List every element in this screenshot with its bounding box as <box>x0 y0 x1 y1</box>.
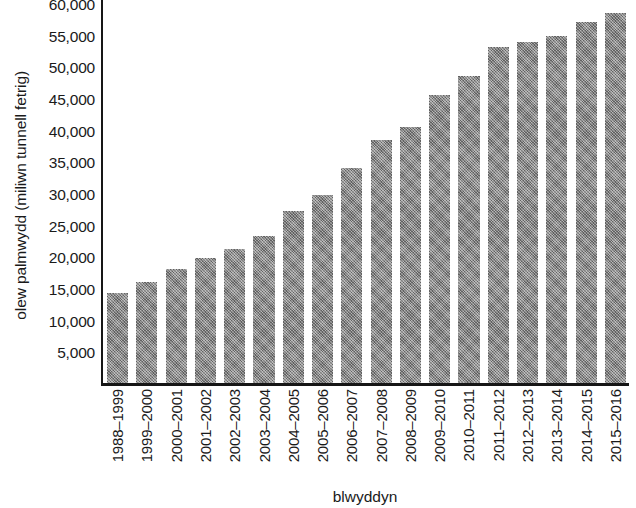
x-axis-tick-label: 2014–2015 <box>579 389 594 462</box>
bar <box>166 269 187 383</box>
x-axis-tick-label: 2002–2003 <box>227 389 242 462</box>
x-axis-tick-label: 2013–2014 <box>549 389 564 462</box>
x-axis-tick-label: 2009–2010 <box>432 389 447 462</box>
x-axis-tick-label: 2008–2009 <box>403 389 418 462</box>
bar <box>253 236 274 383</box>
x-axis-tick-label: 2004–2005 <box>286 389 301 462</box>
y-axis-tick-label: 15,000 <box>49 282 95 298</box>
y-axis-tick-label: 50,000 <box>49 61 95 77</box>
x-axis-tick-label: 2006–2007 <box>344 389 359 462</box>
y-axis-tick-label: 30,000 <box>49 187 95 203</box>
y-axis-tick-label: 55,000 <box>49 29 95 45</box>
x-axis-tick-label: 2015–2016 <box>608 389 623 462</box>
x-axis-tick-label: 2007–2008 <box>374 389 389 462</box>
bar <box>341 168 362 383</box>
x-axis-tick-label: 2000–2001 <box>169 389 184 462</box>
x-axis-line <box>101 383 629 386</box>
y-axis-tick-label: 10,000 <box>49 314 95 330</box>
bar <box>195 258 216 383</box>
x-axis-tick-label: 2011–2012 <box>491 389 506 461</box>
bar <box>312 195 333 383</box>
y-axis-tick-label: 25,000 <box>49 219 95 235</box>
bar <box>605 13 626 383</box>
bar <box>458 76 479 383</box>
bar <box>400 127 421 384</box>
plot-area <box>101 0 629 386</box>
y-axis-title-text: olew palmwydd (miliwn tunnell fetrig) <box>13 71 29 320</box>
x-axis-title: blwyddyn <box>101 489 629 505</box>
x-axis-tick-label: 2003–2004 <box>257 389 272 462</box>
y-axis-tick-labels: 5,00010,00015,00020,00025,00030,00035,00… <box>42 0 98 390</box>
x-axis-tick-label: 2012–2013 <box>520 389 535 462</box>
y-axis-title: olew palmwydd (miliwn tunnell fetrig) <box>0 0 42 390</box>
x-axis-tick-label: 2001–2002 <box>198 389 213 462</box>
x-axis-tick-label: 1999–2000 <box>139 389 154 462</box>
bar <box>371 140 392 383</box>
bar <box>136 282 157 383</box>
bar <box>488 47 509 383</box>
bars-layer <box>103 0 629 383</box>
y-axis-tick-label: 60,000 <box>49 0 95 13</box>
bar <box>107 293 128 383</box>
y-axis-tick-label: 35,000 <box>49 156 95 172</box>
bar <box>283 211 304 383</box>
x-axis-tick-label: 1988–1999 <box>110 389 125 462</box>
bar <box>517 42 538 383</box>
y-axis-tick-label: 45,000 <box>49 92 95 108</box>
y-axis-tick-label: 40,000 <box>49 124 95 140</box>
bar <box>224 249 245 383</box>
bar <box>429 95 450 383</box>
x-axis-tick-labels: 1988–19991999–20002000–20012001–20022002… <box>103 389 630 489</box>
y-axis-tick-label: 20,000 <box>49 251 95 267</box>
bar-chart-figure: olew palmwydd (miliwn tunnell fetrig) 5,… <box>0 0 636 508</box>
bar <box>546 36 567 383</box>
x-axis-tick-label: 2010–2011 <box>461 389 476 461</box>
x-axis-tick-label: 2005–2006 <box>315 389 330 462</box>
bar <box>576 22 597 383</box>
y-axis-tick-label: 5,000 <box>57 346 95 362</box>
